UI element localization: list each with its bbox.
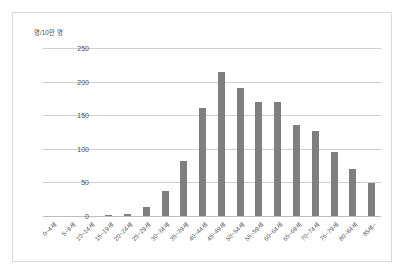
bar-slot	[344, 48, 363, 216]
y-axis-unit-label: 명/10만 명	[34, 28, 63, 37]
bar	[180, 161, 187, 216]
bar	[331, 152, 338, 216]
bar	[124, 214, 131, 216]
x-axis-tick-label: 85세~	[360, 220, 378, 238]
plot-area: 명/10만 명 050100150200250 0~4세5~9세10~14세15…	[13, 13, 391, 261]
gridline-0	[43, 216, 381, 217]
bar	[218, 72, 225, 216]
bar-slot	[81, 48, 100, 216]
bar	[312, 131, 319, 216]
bar-slot	[306, 48, 325, 216]
bar-slot	[137, 48, 156, 216]
bar-slot	[287, 48, 306, 216]
bar	[199, 108, 206, 216]
bar-slot	[193, 48, 212, 216]
bar	[293, 125, 300, 216]
bar	[162, 191, 169, 216]
x-axis-tick-label: 0~4세	[41, 220, 59, 238]
bars-group	[43, 48, 381, 216]
bar-slot	[362, 48, 381, 216]
x-axis-labels-group: 0~4세5~9세10~14세15~19세20~24세25~29세30~34세35…	[43, 218, 381, 264]
bar-slot	[268, 48, 287, 216]
bar	[105, 215, 112, 216]
bar-slot	[118, 48, 137, 216]
bar-slot	[156, 48, 175, 216]
bar	[368, 183, 375, 216]
bar-slot	[325, 48, 344, 216]
x-axis-label-slot: 0~4세	[43, 218, 62, 264]
bar	[349, 169, 356, 216]
x-axis-label-slot: 85세~	[362, 218, 381, 264]
bar-slot	[62, 48, 81, 216]
bar	[255, 102, 262, 216]
bar-slot	[250, 48, 269, 216]
bar-slot	[174, 48, 193, 216]
bar	[237, 88, 244, 216]
bar-slot	[212, 48, 231, 216]
bar-slot	[43, 48, 62, 216]
chart-frame: 명/10만 명 050100150200250 0~4세5~9세10~14세15…	[12, 12, 392, 262]
bar-slot	[99, 48, 118, 216]
x-axis-label-slot: 80~84세	[344, 218, 363, 264]
bar	[143, 207, 150, 216]
bar-slot	[231, 48, 250, 216]
bar	[274, 102, 281, 216]
